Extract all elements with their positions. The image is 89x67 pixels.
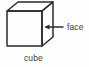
cube-right-face xyxy=(42,2,53,46)
cube-front-face xyxy=(7,11,42,46)
face-label: face xyxy=(67,23,83,32)
cube-wireframe xyxy=(7,2,53,46)
arrowhead-icon xyxy=(45,25,50,30)
cube-label: cube xyxy=(24,54,43,63)
cube-diagram: face cube xyxy=(0,0,89,67)
cube-illustration xyxy=(0,0,89,67)
cube-top-face xyxy=(7,2,53,11)
